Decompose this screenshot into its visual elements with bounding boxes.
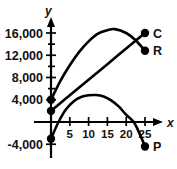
x-tick-label: 10	[82, 128, 95, 140]
economics-cost-revenue-profit-chart: 4,0008,00012,00016,000-4,000 510152025 y…	[0, 0, 177, 169]
y-axis-arrow	[47, 17, 55, 27]
y-tick-label: 4,000	[12, 93, 43, 107]
series-end-labels: CRP	[153, 27, 162, 154]
x-tick-label: 15	[101, 128, 114, 140]
data-point-marker	[47, 134, 55, 142]
y-tick-label: 8,000	[12, 71, 43, 85]
series-label-R: R	[153, 44, 162, 58]
data-point-marker	[47, 96, 55, 104]
y-tick-label: 12,000	[5, 49, 43, 63]
x-axis-arrow	[153, 118, 163, 126]
y-axis-title: y	[44, 4, 53, 18]
data-point-marker	[141, 29, 149, 37]
y-tick-label: -4,000	[8, 138, 43, 152]
chart-container: 4,0008,00012,00016,000-4,000 510152025 y…	[0, 0, 177, 169]
y-tick-label: 16,000	[5, 27, 43, 41]
marked-points-group	[47, 29, 149, 151]
data-point-marker	[141, 47, 149, 55]
x-tick-label: 20	[120, 128, 133, 140]
series-label-P: P	[153, 140, 161, 154]
y-tick-labels: 4,0008,00012,00016,000-4,000	[5, 27, 43, 152]
revenue-curve	[51, 29, 145, 100]
x-axis-title: x	[166, 116, 175, 130]
data-point-marker	[47, 107, 55, 115]
x-tick-label: 5	[67, 128, 74, 140]
data-point-marker	[141, 142, 149, 150]
series-label-C: C	[153, 27, 162, 41]
